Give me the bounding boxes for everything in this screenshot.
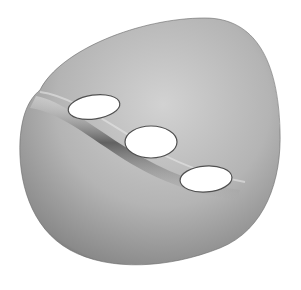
hole-2	[125, 126, 177, 158]
surface-figure	[0, 0, 301, 290]
